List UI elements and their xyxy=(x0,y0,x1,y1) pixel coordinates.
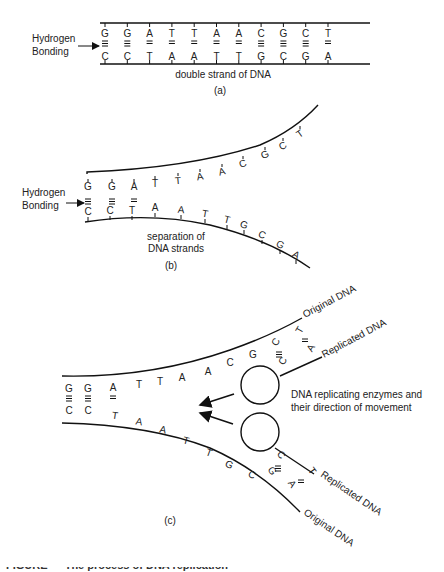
base-letter: A xyxy=(169,51,176,62)
base-letter: C xyxy=(302,28,309,39)
base-letter: G xyxy=(84,181,92,192)
base-letter: C xyxy=(226,357,233,368)
base-letter: A xyxy=(196,170,205,182)
base-letter: A xyxy=(191,51,198,62)
original-dna-top-label: Original DNA xyxy=(301,283,358,320)
svg-text:DNA strands: DNA strands xyxy=(148,243,204,254)
replicated-dna-top-label: Replicated DNA xyxy=(320,316,388,359)
base-letter: T xyxy=(223,213,232,225)
base-letter: T xyxy=(294,127,305,140)
base-letter: G xyxy=(280,28,288,39)
base-letter: A xyxy=(325,51,332,62)
base-letter: A xyxy=(304,342,317,354)
base-letter: A xyxy=(235,28,242,39)
enzyme-circle-top xyxy=(241,366,279,404)
base-letter: C xyxy=(280,51,287,62)
base-letter: G xyxy=(108,181,116,192)
direction-arrow-icon xyxy=(200,413,233,424)
dna-replication-diagram: GCGCATTATAATATCGGCCGTA Hydrogen Bonding … xyxy=(0,0,444,572)
base-letter: C xyxy=(257,28,264,39)
base-letter: A xyxy=(213,28,220,39)
base-letter: T xyxy=(111,410,119,422)
base-letter: A xyxy=(110,382,117,393)
svg-text:Hydrogen: Hydrogen xyxy=(22,187,65,198)
enzyme-circle-bottom xyxy=(241,413,279,451)
base-letter: T xyxy=(157,376,163,387)
base-letter: C xyxy=(65,405,72,416)
base-letter: A xyxy=(152,202,159,213)
base-letter: G xyxy=(274,238,286,251)
base-letter: C xyxy=(257,228,268,241)
base-letter: T xyxy=(136,379,142,390)
base-letter: G xyxy=(65,383,73,394)
panel-a: GCGCATTATAATATCGGCCGTA Hydrogen Bonding … xyxy=(32,23,370,96)
base-letter: A xyxy=(217,165,227,177)
panel-label-b: (b) xyxy=(165,260,177,271)
base-letter: C xyxy=(84,206,91,217)
panel-b: GCGCATTATAATATCGGCCGTA Hydrogen Bonding … xyxy=(22,105,318,271)
svg-text:their direction of movement: their direction of movement xyxy=(291,402,412,413)
base-letter: T xyxy=(169,28,175,39)
base-letter: T xyxy=(293,324,306,335)
base-letter: T xyxy=(306,465,319,476)
strand-caption: double strand of DNA xyxy=(175,69,271,80)
base-letter: G xyxy=(239,218,250,231)
base-letter: C xyxy=(101,51,108,62)
base-letter: T xyxy=(213,51,219,62)
base-letter: C xyxy=(106,205,113,216)
base-letter: A xyxy=(179,372,186,383)
base-letter: T xyxy=(204,446,214,458)
svg-text:Bonding: Bonding xyxy=(32,46,69,57)
base-letter: A xyxy=(291,248,303,261)
base-letter: A xyxy=(135,416,144,428)
base-letter: G xyxy=(123,28,131,39)
base-letter: T xyxy=(147,51,153,62)
base-letter: C xyxy=(269,336,282,348)
base-letter: G xyxy=(84,383,92,394)
separation-caption: separation of xyxy=(147,231,205,242)
original-dna-bottom-label: Original DNA xyxy=(302,507,357,549)
base-letter: T xyxy=(191,28,197,39)
base-letter: T xyxy=(129,205,135,216)
base-letter: G xyxy=(223,458,235,471)
base-letter: A xyxy=(205,366,212,377)
svg-text:Bonding: Bonding xyxy=(22,200,59,211)
base-letter: A xyxy=(131,181,138,192)
base-letter: A xyxy=(146,28,153,39)
enzyme-label: DNA replicating enzymes and xyxy=(291,389,422,400)
base-letter: T xyxy=(182,434,191,446)
direction-arrow-icon xyxy=(200,394,234,405)
panel-label-a: (a) xyxy=(214,85,226,96)
base-letter: C xyxy=(246,468,258,481)
base-letter: T xyxy=(201,208,209,220)
base-letter: C xyxy=(238,157,249,170)
replicated-dna-bottom-label: Replicated DNA xyxy=(319,469,384,518)
base-letter: A xyxy=(177,204,185,216)
hydrogen-bonding-label: Hydrogen xyxy=(32,33,75,44)
base-letter: C xyxy=(275,449,288,461)
figure-caption: FIGURE — The process of DNA replication xyxy=(6,567,438,572)
base-letter: T xyxy=(325,28,331,39)
base-letter: C xyxy=(84,405,91,416)
panel-c: GGATTAACGCCTAATTGCCCTAGCAT DNA replicati… xyxy=(62,283,422,549)
panel-label-c: (c) xyxy=(164,515,176,526)
base-letter: A xyxy=(159,423,168,435)
base-letter: T xyxy=(152,178,158,189)
base-letter: G xyxy=(249,349,257,360)
base-letter: A xyxy=(286,478,299,490)
base-letter: G xyxy=(302,51,310,62)
base-letter: G xyxy=(257,51,265,62)
base-letter: G xyxy=(101,28,109,39)
base-letter: T xyxy=(174,175,181,186)
base-letter: C xyxy=(124,51,131,62)
base-letter: T xyxy=(236,51,242,62)
